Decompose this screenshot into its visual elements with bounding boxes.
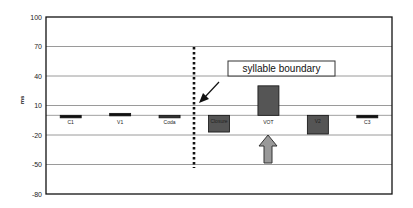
category-label: VOT — [263, 119, 273, 125]
y-tick-label: 10 — [34, 102, 42, 109]
annotation-text: syllable boundary — [243, 63, 321, 74]
category-label: V2 — [315, 118, 321, 124]
category-label: V1 — [117, 119, 123, 125]
bar-coda — [159, 115, 180, 118]
y-tick-label: -20 — [32, 132, 42, 139]
y-tick-label: -80 — [32, 191, 42, 198]
gridlines — [46, 47, 392, 165]
arrow-icon — [199, 82, 219, 103]
bars — [60, 86, 378, 134]
bar-c3 — [357, 115, 378, 118]
y-tick-label: 100 — [30, 14, 42, 21]
y-tick-label: -50 — [32, 161, 42, 168]
bar-chart: 100704010-20-50-80 ms C1V1CodaClosureVOT… — [0, 0, 413, 208]
bar-vot — [258, 86, 279, 116]
category-label: C3 — [364, 119, 371, 125]
y-tick-label: 70 — [34, 43, 42, 50]
category-label: Coda — [164, 119, 176, 125]
y-axis-label: ms — [19, 95, 25, 104]
bar-v1 — [110, 113, 131, 116]
y-tick-label: 40 — [34, 73, 42, 80]
y-axis-ticks: 100704010-20-50-80 — [30, 14, 42, 198]
category-label: Closure — [210, 118, 227, 124]
category-label: C1 — [68, 119, 75, 125]
up-arrow-icon — [259, 135, 277, 163]
bar-c1 — [60, 115, 81, 118]
